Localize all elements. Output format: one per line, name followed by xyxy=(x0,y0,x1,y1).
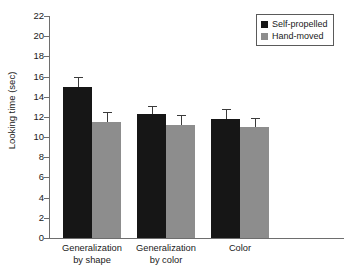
y-tick-label-wrap: 20 xyxy=(0,31,44,40)
bar xyxy=(211,119,240,238)
y-tick-label-wrap: 16 xyxy=(0,72,44,81)
y-tick-label-wrap: 8 xyxy=(0,152,44,161)
legend-label: Self-propelled xyxy=(272,20,328,29)
legend-label: Hand-moved xyxy=(272,32,324,41)
legend-swatch-black-square-icon xyxy=(261,21,268,28)
y-tick-label: 22 xyxy=(18,11,44,20)
error-bar xyxy=(181,115,182,125)
y-tick-label-wrap: 6 xyxy=(0,172,44,181)
error-bar-cap xyxy=(103,112,112,113)
y-tick-label-wrap: 12 xyxy=(0,112,44,121)
y-tick-label: 4 xyxy=(18,193,44,202)
y-tick-label-wrap: 4 xyxy=(0,193,44,202)
y-tick-label-wrap: 14 xyxy=(0,92,44,101)
y-tick-label: 20 xyxy=(18,31,44,40)
error-bar xyxy=(152,106,153,114)
y-tick-label-wrap: 22 xyxy=(0,11,44,20)
legend-item-hand-moved: Hand-moved xyxy=(261,30,328,42)
error-bar xyxy=(226,109,227,119)
y-tick-label: 0 xyxy=(18,233,44,242)
y-tick-label: 18 xyxy=(18,51,44,60)
plot-area xyxy=(50,16,344,238)
x-axis-line xyxy=(49,238,344,239)
y-tick-label: 8 xyxy=(18,152,44,161)
x-axis-group-label: Color xyxy=(190,243,290,255)
error-bar xyxy=(78,77,79,87)
error-bar xyxy=(255,118,256,127)
bar xyxy=(166,125,195,238)
error-bar-cap xyxy=(148,106,157,107)
bar xyxy=(63,87,92,238)
y-tick-label: 6 xyxy=(18,172,44,181)
bar xyxy=(92,122,121,238)
y-tick-label: 2 xyxy=(18,213,44,222)
y-tick-label-wrap: 2 xyxy=(0,213,44,222)
error-bar-cap xyxy=(222,109,231,110)
y-tick-label-wrap: 10 xyxy=(0,132,44,141)
y-tick-label: 16 xyxy=(18,72,44,81)
error-bar-cap xyxy=(177,115,186,116)
y-tick-label: 14 xyxy=(18,92,44,101)
y-tick-label-wrap: 0 xyxy=(0,233,44,242)
bar xyxy=(137,114,166,238)
error-bar-cap xyxy=(74,77,83,78)
legend-swatch-gray-square-icon xyxy=(261,33,268,40)
y-tick-label: 10 xyxy=(18,132,44,141)
y-tick-label-wrap: 18 xyxy=(0,51,44,60)
error-bar-cap xyxy=(251,118,260,119)
legend-item-self-propelled: Self-propelled xyxy=(261,18,328,30)
bar xyxy=(240,127,269,238)
error-bar xyxy=(107,112,108,122)
y-tick-label: 12 xyxy=(18,112,44,121)
bar-chart: Looking time (sec) 0246810121416182022 G… xyxy=(0,0,354,274)
legend: Self-propelled Hand-moved xyxy=(256,14,334,46)
